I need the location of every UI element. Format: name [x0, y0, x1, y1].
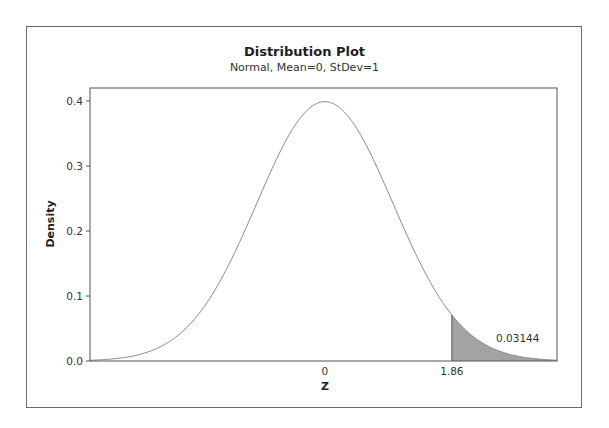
plot-border: [90, 88, 557, 361]
y-axis-title: Density: [44, 200, 57, 247]
plot-area: 0.00.10.20.30.4 01.86 0.03144 Z Density: [0, 0, 609, 428]
x-tick-label: 0: [322, 365, 329, 377]
tail-area-label: 0.03144: [496, 332, 540, 344]
density-curve: [90, 102, 557, 361]
x-axis-ticks: 01.86: [322, 365, 464, 377]
y-tick-label: 0.2: [66, 225, 83, 237]
y-tick-label: 0.3: [66, 160, 83, 172]
y-axis-ticks: 0.00.10.20.30.4: [66, 95, 90, 367]
y-tick-label: 0.0: [66, 355, 83, 367]
x-axis-title: Z: [321, 380, 329, 393]
y-tick-label: 0.1: [66, 290, 83, 302]
y-tick-label: 0.4: [66, 95, 83, 107]
x-tick-label: 1.86: [440, 365, 464, 377]
